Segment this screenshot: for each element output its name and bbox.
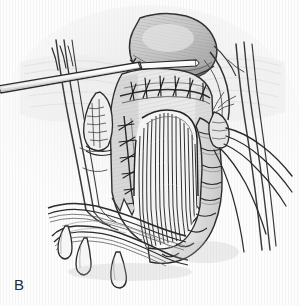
panel-label: B <box>14 277 25 292</box>
surgical-illustration <box>0 0 300 306</box>
figure-panel: B Pen-and-ink surgical illustration of a… <box>0 0 300 306</box>
